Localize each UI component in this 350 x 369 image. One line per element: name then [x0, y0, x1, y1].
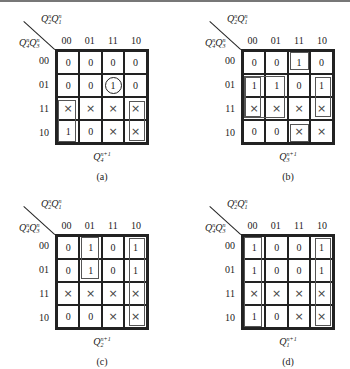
row-header: 10: [31, 312, 49, 323]
kmap-cell: 0: [57, 51, 79, 74]
kmap-cell: 0: [243, 120, 265, 143]
cell-value: 0: [88, 311, 93, 322]
kmap-cell: 0: [310, 51, 332, 74]
column-variable-label: Q2nQ1n: [41, 13, 61, 25]
cell-value: 0: [274, 57, 279, 68]
cell-value: 0: [66, 57, 71, 68]
row-header: 00: [217, 55, 235, 66]
kmap-cell: ×: [310, 282, 332, 305]
figure-caption: (a): [82, 171, 122, 182]
cell-value: 0: [66, 265, 71, 276]
cell-value: 1: [252, 265, 257, 276]
row-header: 11: [217, 103, 235, 114]
kmap-cell: ×: [57, 282, 79, 305]
column-header: 00: [241, 220, 264, 231]
kmap-cell: 1: [79, 259, 101, 282]
kmap-grid: 00101101××××00××: [241, 49, 335, 145]
var-subscript: 1: [287, 342, 290, 348]
dont-care-mark: ×: [86, 102, 95, 115]
kmap-cell: 1: [243, 259, 265, 282]
kmap-cell: ×: [79, 97, 101, 120]
dont-care-mark: ×: [131, 102, 140, 115]
kmap-cell: 0: [265, 236, 287, 259]
row-variable-label: Q4nQ3n: [19, 222, 39, 234]
figure-caption: (d): [268, 356, 308, 367]
column-header: 01: [264, 220, 287, 231]
kmap-b: Q2nQ1nQ4nQ3n000111100001111000101101××××…: [186, 0, 350, 184]
kmap-cell: 0: [79, 51, 101, 74]
dont-care-mark: ×: [86, 287, 95, 300]
cell-value: 0: [274, 311, 279, 322]
circled-term: 1: [105, 77, 122, 94]
kmap-cell: 0: [243, 51, 265, 74]
row-header: 10: [217, 312, 235, 323]
column-header: 11: [101, 35, 124, 46]
var-subscript: 1: [58, 19, 61, 25]
var-base: Q: [279, 336, 286, 347]
kmap-cell: ×: [288, 282, 310, 305]
kmap-cell: 0: [102, 259, 124, 282]
kmap-cell: 1: [265, 74, 287, 97]
kmap-cell: ×: [288, 120, 310, 143]
var-subscript: 3: [287, 157, 290, 163]
kmap-d: Q2nQ1nQ4nQ3n000111100001111010011001××××…: [186, 185, 350, 369]
row-header: 11: [31, 288, 49, 299]
kmap-cell: 0: [79, 120, 101, 143]
column-header: 01: [264, 35, 287, 46]
dont-care-mark: ×: [109, 125, 118, 138]
kmap-cell: 1: [124, 259, 146, 282]
kmap-grid: 01010101××××00××: [55, 234, 149, 330]
cell-value: 0: [252, 126, 257, 137]
cell-value: 1: [319, 265, 324, 276]
kmap-cell: ×: [124, 120, 146, 143]
row-header: 01: [217, 79, 235, 90]
var-subscript: 1: [244, 204, 247, 210]
dont-care-mark: ×: [295, 102, 304, 115]
kmap-c: Q2nQ1nQ4nQ3n000111100001111001010101××××…: [0, 185, 175, 369]
kmap-cell: 1: [243, 236, 265, 259]
cell-value: 1: [274, 80, 279, 91]
var-subscript: 3: [222, 228, 225, 234]
column-header: 10: [125, 35, 148, 46]
cell-value: 1: [319, 80, 324, 91]
cell-value: 0: [66, 311, 71, 322]
cell-value: 0: [66, 80, 71, 91]
kmap-cell: ×: [310, 97, 332, 120]
cell-value: 0: [111, 57, 116, 68]
column-variable-label: Q2nQ1n: [227, 198, 247, 210]
kmap-a: Q2nQ1nQ4nQ3n000111100001111000000010××××…: [0, 0, 175, 184]
var-superscript: n+1: [101, 336, 111, 342]
cell-value: 0: [111, 242, 116, 253]
output-variable-label: Q3n+1: [258, 151, 318, 163]
cell-value: 0: [274, 242, 279, 253]
cell-value: 0: [111, 265, 116, 276]
dont-care-mark: ×: [109, 310, 118, 323]
kmap-cell: 1: [102, 74, 124, 97]
cell-value: 1: [133, 242, 138, 253]
row-header: 00: [31, 55, 49, 66]
row-header: 11: [217, 288, 235, 299]
column-variable-label: Q2nQ1n: [41, 198, 61, 210]
dont-care-mark: ×: [295, 287, 304, 300]
cell-value: 1: [88, 265, 93, 276]
column-header: 10: [125, 220, 148, 231]
kmap-cell: ×: [288, 305, 310, 328]
dont-care-mark: ×: [250, 102, 259, 115]
dont-care-mark: ×: [131, 125, 140, 138]
var-base: Q: [279, 151, 286, 162]
column-header: 11: [101, 220, 124, 231]
cell-value: 0: [297, 242, 302, 253]
column-header: 10: [311, 220, 334, 231]
kmap-cell: ×: [124, 97, 146, 120]
kmap-cell: ×: [243, 97, 265, 120]
kmap-cell: 0: [288, 259, 310, 282]
dont-care-mark: ×: [64, 102, 73, 115]
var-subscript: 3: [222, 43, 225, 49]
row-variable-label: Q4nQ3n: [205, 222, 225, 234]
cell-value: 1: [66, 126, 71, 137]
row-variable-label: Q4nQ3n: [19, 37, 39, 49]
output-variable-label: Q2n+1: [72, 336, 132, 348]
kmap-cell: ×: [124, 305, 146, 328]
figure-caption: (c): [82, 356, 122, 367]
kmap-cell: 0: [57, 236, 79, 259]
